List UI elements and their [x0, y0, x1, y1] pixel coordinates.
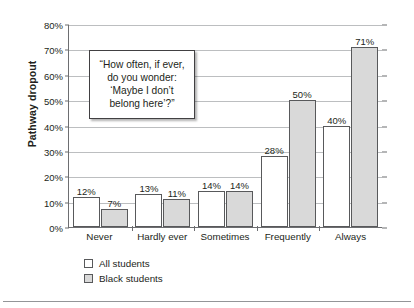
y-axis-tick-mark-right: [382, 228, 387, 229]
x-axis-tick-label: Hardly ever: [131, 231, 194, 242]
x-axis-tick-labels: NeverHardly everSometimesFrequentlyAlway…: [68, 231, 382, 242]
y-axis-tick-mark-right: [382, 126, 387, 127]
x-axis-tick-label: Never: [68, 231, 131, 242]
bar-black-students[interactable]: 11%: [163, 199, 190, 227]
y-axis-tick-label: 70%: [44, 45, 63, 56]
bar-black-students[interactable]: 50%: [289, 100, 316, 227]
legend-label-all-students: All students: [99, 258, 150, 269]
y-axis-tick-mark-right: [382, 202, 387, 203]
x-axis-tick-label: Frequently: [256, 231, 319, 242]
y-axis-tick-label: 40%: [44, 121, 63, 132]
callout-line: do you wonder:: [96, 71, 188, 84]
bar-value-label: 7%: [107, 198, 121, 209]
y-axis-tick-label: 10%: [44, 197, 63, 208]
bar-value-label: 40%: [327, 115, 346, 126]
legend-swatch-icon-all-students: [84, 259, 93, 268]
y-axis-tick-label: 20%: [44, 172, 63, 183]
y-axis-tick-label: 0%: [49, 223, 63, 234]
y-axis-tick-mark-right: [382, 25, 387, 26]
bar-group: 40%71%: [319, 25, 382, 227]
bar-all-students[interactable]: 14%: [198, 191, 225, 227]
bar-black-students[interactable]: 14%: [226, 191, 253, 227]
y-axis-tick-mark: [65, 228, 69, 229]
y-axis-tick-label: 80%: [44, 20, 63, 31]
bar-value-label: 12%: [77, 186, 96, 197]
bar-value-label: 14%: [202, 180, 221, 191]
x-axis-tick-label: Always: [319, 231, 382, 242]
y-axis-tick-mark-right: [382, 75, 387, 76]
legend-item-all-students[interactable]: All students: [84, 258, 163, 269]
question-callout: “How often, if ever,do you wonder:‘Maybe…: [89, 50, 195, 119]
y-axis-tick-mark-right: [382, 101, 387, 102]
bar-all-students[interactable]: 28%: [261, 156, 288, 227]
figure-bottom-rule: [3, 301, 411, 302]
bar-value-label: 11%: [168, 188, 186, 199]
legend-swatch-icon-black-students: [84, 274, 93, 283]
bar-value-label: 71%: [355, 36, 374, 47]
y-axis-tick-mark-right: [382, 151, 387, 152]
x-axis-tick-label: Sometimes: [194, 231, 257, 242]
bar-group: 28%50%: [257, 25, 320, 227]
y-axis-tick-mark-right: [382, 50, 387, 51]
y-axis-tick-mark-right: [382, 177, 387, 178]
bar-value-label: 50%: [293, 89, 312, 100]
chart-legend: All students Black students: [84, 258, 163, 288]
bar-value-label: 28%: [265, 145, 284, 156]
legend-item-black-students[interactable]: Black students: [84, 273, 163, 284]
bar-all-students[interactable]: 40%: [323, 126, 350, 228]
chart-figure: Pathway dropout 0%10%20%30%40%50%60%70%8…: [0, 0, 414, 308]
callout-line: ‘Maybe I don’t: [96, 84, 188, 97]
bar-value-label: 13%: [139, 183, 158, 194]
y-axis-tick-label: 30%: [44, 146, 63, 157]
callout-line: belong here’?”: [96, 97, 188, 110]
callout-line: “How often, if ever,: [96, 58, 188, 71]
y-axis-title: Pathway dropout: [26, 24, 38, 184]
bar-all-students[interactable]: 12%: [73, 197, 100, 227]
bar-black-students[interactable]: 71%: [351, 47, 378, 227]
bar-black-students[interactable]: 7%: [101, 209, 128, 227]
y-axis-tick-label: 60%: [44, 70, 63, 81]
bar-all-students[interactable]: 13%: [135, 194, 162, 227]
y-axis-tick-label: 50%: [44, 96, 63, 107]
legend-label-black-students: Black students: [99, 273, 163, 284]
bar-group: 14%14%: [194, 25, 257, 227]
bar-value-label: 14%: [230, 180, 249, 191]
